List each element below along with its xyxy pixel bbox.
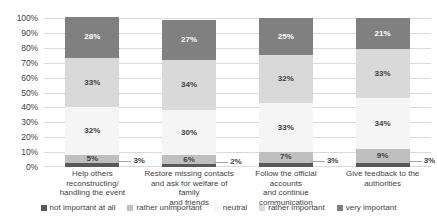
stacked-bar[interactable]: 3%9%34%33%21% bbox=[356, 18, 410, 167]
bar-segment[interactable]: 7% bbox=[259, 152, 313, 162]
bar-segment[interactable]: 34% bbox=[162, 60, 216, 111]
category-label-line: handling the event bbox=[46, 188, 139, 198]
bar-segment[interactable]: 33% bbox=[65, 58, 119, 107]
y-axis-tick-label: 90% bbox=[0, 29, 38, 38]
category-label-line: Follow the official accounts bbox=[240, 169, 333, 188]
bar-segment[interactable]: 21% bbox=[356, 18, 410, 49]
legend-label: neutral bbox=[223, 204, 247, 212]
legend-label: rather important bbox=[268, 204, 324, 212]
y-axis-tick-label: 60% bbox=[0, 74, 38, 83]
bar-segment[interactable]: 9% bbox=[356, 149, 410, 162]
legend-swatch-icon bbox=[259, 205, 265, 211]
bar-segment-value-label: 7% bbox=[280, 153, 292, 161]
bar-segment[interactable]: 34% bbox=[356, 98, 410, 149]
bar-segment[interactable]: 25% bbox=[259, 18, 313, 55]
bar-segment-callout-label: 3% bbox=[327, 157, 339, 165]
bar-segment[interactable]: 2% bbox=[162, 164, 216, 167]
stacked-bar[interactable]: 3%5%32%33%28% bbox=[65, 18, 119, 167]
bar-segment-callout-label: 2% bbox=[230, 158, 242, 166]
bar-segment[interactable]: 3% bbox=[65, 163, 119, 167]
bar-segment-value-label: 25% bbox=[278, 33, 294, 41]
y-axis-tick-label: 20% bbox=[0, 133, 38, 142]
callout-leader-line bbox=[214, 162, 228, 163]
y-axis-tick-label: 10% bbox=[0, 148, 38, 157]
category-label-line: authorities bbox=[336, 179, 429, 189]
y-axis-tick-label: 100% bbox=[0, 14, 38, 23]
legend-item[interactable]: very important bbox=[337, 204, 397, 212]
bar-segment-value-label: 33% bbox=[278, 124, 294, 132]
legend-swatch-icon bbox=[127, 205, 133, 211]
bar-segment[interactable]: 3% bbox=[259, 163, 313, 167]
category-label-line: and continue bbox=[240, 188, 333, 198]
legend-label: not important at all bbox=[50, 204, 116, 212]
bar-group: 3%7%33%32%25% bbox=[259, 18, 313, 167]
legend-label: very important bbox=[346, 204, 397, 212]
legend-item[interactable]: neutral bbox=[214, 204, 247, 212]
bar-group: 2%6%30%34%27% bbox=[162, 18, 216, 167]
legend-swatch-icon bbox=[214, 205, 220, 211]
legend-item[interactable]: not important at all bbox=[41, 204, 116, 212]
callout-leader-line bbox=[408, 161, 422, 162]
stacked-bar[interactable]: 3%7%33%32%25% bbox=[259, 18, 313, 167]
bar-segment-value-label: 32% bbox=[278, 75, 294, 83]
legend-swatch-icon bbox=[41, 205, 47, 211]
bar-segment[interactable]: 30% bbox=[162, 110, 216, 155]
bar-segment[interactable]: 32% bbox=[259, 55, 313, 103]
bar-segment-callout-label: 3% bbox=[424, 157, 436, 165]
category-label-line: and ask for welfare of family bbox=[143, 179, 236, 198]
stacked-bar-chart: 100%90%80%70%60%50%40%30%20%10%0% 3%5%32… bbox=[0, 0, 437, 223]
y-axis-tick-label: 70% bbox=[0, 59, 38, 68]
bar-segment[interactable]: 6% bbox=[162, 155, 216, 164]
legend-label: rather unimportant bbox=[136, 204, 201, 212]
bar-series-container: 3%5%32%33%28%2%6%30%34%27%3%7%33%32%25%3… bbox=[44, 18, 431, 167]
stacked-bar[interactable]: 2%6%30%34%27% bbox=[162, 18, 216, 167]
bar-segment-callout-label: 3% bbox=[133, 157, 145, 165]
callout-leader-line bbox=[117, 161, 131, 162]
category-label-line: Give feedback to the bbox=[336, 169, 429, 179]
bar-segment[interactable]: 32% bbox=[65, 107, 119, 155]
bar-segment-value-label: 28% bbox=[84, 33, 100, 41]
y-axis-tick-label: 80% bbox=[0, 44, 38, 53]
y-axis-tick-label: 0% bbox=[0, 163, 38, 172]
bar-segment-value-label: 27% bbox=[181, 36, 197, 44]
bar-group: 3%9%34%33%21% bbox=[356, 18, 410, 167]
chart-legend: not important at allrather unimportantne… bbox=[0, 201, 437, 215]
bar-segment-value-label: 21% bbox=[375, 30, 391, 38]
bar-segment-value-label: 34% bbox=[375, 120, 391, 128]
bar-segment-value-label: 5% bbox=[87, 155, 99, 163]
y-axis-tick-label: 50% bbox=[0, 89, 38, 98]
y-axis: 100%90%80%70%60%50%40%30%20%10%0% bbox=[0, 18, 40, 167]
y-axis-tick-label: 40% bbox=[0, 103, 38, 112]
bar-segment-value-label: 34% bbox=[181, 81, 197, 89]
legend-item[interactable]: rather important bbox=[259, 204, 324, 212]
x-axis-category-labels: Help others reconstructing/handling the … bbox=[44, 169, 431, 199]
bar-segment[interactable]: 27% bbox=[162, 20, 216, 60]
category-label-line: Restore missing contacts bbox=[143, 169, 236, 179]
category-label-line: Help others reconstructing/ bbox=[46, 169, 139, 188]
bar-segment[interactable]: 33% bbox=[356, 49, 410, 98]
legend-swatch-icon bbox=[337, 205, 343, 211]
legend-item[interactable]: rather unimportant bbox=[127, 204, 201, 212]
bar-segment-value-label: 30% bbox=[181, 129, 197, 137]
bar-segment[interactable]: 28% bbox=[65, 17, 119, 59]
bar-segment-value-label: 33% bbox=[375, 70, 391, 78]
bar-segment[interactable]: 5% bbox=[65, 155, 119, 162]
bar-group: 3%5%32%33%28% bbox=[65, 18, 119, 167]
callout-leader-line bbox=[311, 161, 325, 162]
x-axis-category-label: Give feedback to theauthorities bbox=[336, 169, 429, 188]
x-axis-category-label: Help others reconstructing/handling the … bbox=[46, 169, 139, 198]
plot-area: 3%5%32%33%28%2%6%30%34%27%3%7%33%32%25%3… bbox=[44, 18, 431, 167]
y-axis-tick-label: 30% bbox=[0, 118, 38, 127]
bar-segment-value-label: 6% bbox=[183, 156, 195, 164]
bar-segment[interactable]: 33% bbox=[259, 103, 313, 152]
bar-segment-value-label: 33% bbox=[84, 79, 100, 87]
bar-segment[interactable]: 3% bbox=[356, 163, 410, 167]
bar-segment-value-label: 32% bbox=[84, 127, 100, 135]
bar-segment-value-label: 9% bbox=[377, 152, 389, 160]
